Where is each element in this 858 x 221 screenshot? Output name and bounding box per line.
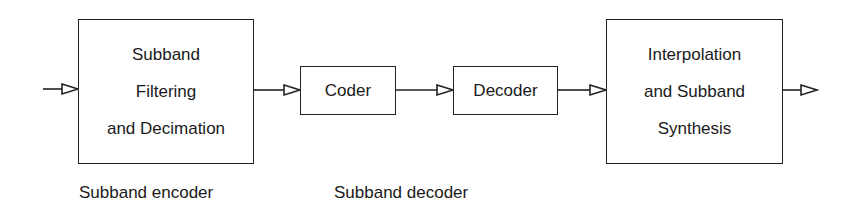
block-text-line: Coder (325, 81, 371, 101)
output-arrowhead-icon (801, 85, 817, 95)
decoder-caption: Subband decoder (334, 183, 468, 203)
input-arrowhead-icon (62, 84, 78, 94)
coder-arrowhead-icon (284, 85, 300, 95)
coder-block: Coder (300, 66, 396, 115)
block-text-line: Decoder (473, 81, 537, 101)
encoder-caption: Subband encoder (79, 183, 213, 203)
block-text-line: Interpolation (648, 36, 742, 73)
block-text-line: Subband (132, 36, 200, 73)
synthesis-block: Interpolation and Subband Synthesis (606, 19, 783, 164)
block-text-line: and Subband (644, 73, 745, 110)
block-text-line: Synthesis (658, 110, 732, 147)
block-text-line: Filtering (136, 73, 196, 110)
block-text-line: and Decimation (107, 110, 225, 147)
decoder-arrowhead-icon (437, 85, 453, 95)
synthesis-arrowhead-icon (590, 85, 606, 95)
analysis-filter-block: Subband Filtering and Decimation (78, 19, 254, 164)
decoder-block: Decoder (453, 66, 558, 115)
